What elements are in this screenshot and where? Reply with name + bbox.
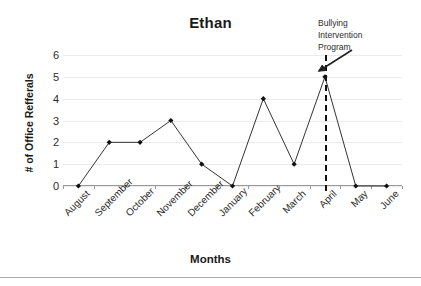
x-axis-title: Months [0, 253, 421, 265]
x-tick-label: November [154, 188, 184, 218]
y-tick-label: 6 [43, 49, 59, 61]
x-tick-label: May [339, 188, 369, 218]
x-tick-label: January [216, 188, 246, 218]
x-tick-label: September [93, 188, 123, 218]
x-tick-label: June [370, 188, 400, 218]
annotation-text-line: Intervention [318, 29, 414, 41]
y-tick-label: 4 [43, 93, 59, 105]
chart-figure: Ethan # of Office Refferals 0123456 Augu… [0, 0, 421, 286]
y-tick-label: 5 [43, 71, 59, 83]
x-tick-label: October [123, 188, 153, 218]
annotation-text-line: Bullying [318, 17, 414, 29]
y-tick-label: 2 [43, 136, 59, 148]
data-point-marker [292, 162, 297, 167]
data-point-marker [261, 96, 266, 101]
x-tick-label: February [247, 188, 277, 218]
x-tick [402, 186, 403, 189]
x-axis-tick-labels: AugustSeptemberOctoberNovemberDecemberJa… [63, 188, 402, 248]
x-tick-label: December [185, 188, 215, 218]
x-tick-label: March [277, 188, 307, 218]
x-tick-label: August [62, 188, 92, 218]
y-axis-tick-labels: 0123456 [41, 55, 59, 186]
annotation-arrow-icon [312, 48, 354, 76]
y-tick-label: 1 [43, 158, 59, 170]
y-axis-title: # of Office Refferals [23, 48, 35, 198]
bottom-divider [0, 277, 421, 278]
x-tick-label: April [308, 188, 338, 218]
y-tick-label: 3 [43, 115, 59, 127]
y-tick-label: 0 [43, 180, 59, 192]
